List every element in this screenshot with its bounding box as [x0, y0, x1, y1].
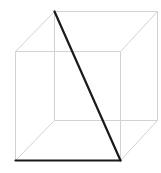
- cube-diagram: [0, 0, 161, 173]
- cube-edge: [121, 121, 158, 161]
- cube-edge: [16, 121, 55, 161]
- space-diagonal-line: [55, 12, 121, 161]
- cube-edge: [16, 12, 55, 52]
- cube-edge: [121, 12, 158, 52]
- highlighted-segments: [16, 12, 121, 161]
